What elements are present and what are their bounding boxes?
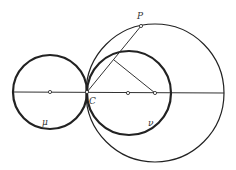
point-big-center: [153, 91, 156, 94]
segment-perpendicular: [114, 60, 155, 93]
label-p: P: [136, 11, 144, 21]
point-p: [139, 24, 142, 27]
label-nu: ν: [148, 118, 154, 128]
center-axis-line: [14, 92, 224, 93]
point-c: [85, 90, 88, 93]
label-mu: μ: [42, 117, 48, 127]
point-mu-center: [48, 90, 51, 93]
tangent-circles-diagram: P C μ ν: [0, 0, 236, 170]
point-nu-center: [126, 91, 129, 94]
label-c: C: [89, 96, 96, 106]
